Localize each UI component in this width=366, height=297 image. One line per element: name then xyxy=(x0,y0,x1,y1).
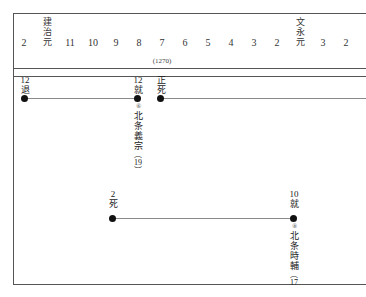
year-column-6-label: 7 xyxy=(151,38,173,49)
year-column-7-label: 6 xyxy=(174,38,196,49)
timeline-dot-upper-death xyxy=(157,95,164,102)
era-char: 元 xyxy=(289,37,311,47)
timeline-dot-lower-appoint xyxy=(290,215,297,222)
year-column-5-label: 8 xyxy=(128,38,150,49)
year-column-3-label: 10 xyxy=(82,38,104,49)
era-char: 文 xyxy=(289,17,311,27)
header-divider-lower xyxy=(13,76,366,77)
timeline-dot-upper-mid xyxy=(134,95,141,102)
western-year-annotation: (1270) xyxy=(142,57,182,65)
year-column-10-label: 3 xyxy=(243,38,265,49)
frame-left-border xyxy=(13,13,14,285)
event-label-upper-retire: 12 退 xyxy=(15,76,35,96)
person-name-char: 時 xyxy=(287,251,301,261)
year-column-11-label: 2 xyxy=(266,38,288,49)
event-label-upper-death: 正 死 xyxy=(151,76,171,96)
frame-top-border xyxy=(13,13,366,14)
year-column-9-label: 4 xyxy=(220,38,242,49)
person-name-char: 条 xyxy=(131,121,145,131)
year-column-14-label: 2 xyxy=(335,38,357,49)
person-name-char: 義 xyxy=(131,131,145,141)
era-char: 元 xyxy=(36,37,58,47)
year-column-4-label: 9 xyxy=(105,38,127,49)
timeline-dot-upper-start xyxy=(21,95,28,102)
person-label-hojo-munemune: ⑥ 北 条 義 宗 ︵ 19 ︶ xyxy=(131,103,145,175)
person-name-char: 北 xyxy=(287,231,301,241)
era-char: 永 xyxy=(289,27,311,37)
timeline-dot-lower-death xyxy=(109,215,116,222)
era-label-bunei: 文 永 元 xyxy=(289,17,311,47)
event-label-upper-appoint: 12 就 xyxy=(128,76,148,96)
person-order-marker: ⑧ xyxy=(287,223,301,230)
event-action: 就 xyxy=(284,200,304,210)
year-column-13-label: 3 xyxy=(312,38,334,49)
event-action: 退 xyxy=(15,86,35,96)
frame-bottom-border xyxy=(13,284,366,285)
timeline-segment-upper-left xyxy=(24,98,140,99)
era-char: 治 xyxy=(36,27,58,37)
event-label-lower-death: 2 死 xyxy=(103,190,123,210)
person-age: 17 xyxy=(287,279,301,287)
year-column-2-label: 11 xyxy=(59,38,81,49)
paren-close: ︶ xyxy=(131,167,145,175)
timeline-segment-upper-right xyxy=(160,98,366,99)
event-action: 死 xyxy=(151,86,171,96)
timeline-segment-lower xyxy=(112,218,293,219)
person-name-char: 条 xyxy=(287,241,301,251)
header-divider xyxy=(13,68,366,69)
era-char: 建 xyxy=(36,17,58,27)
person-name-char: 北 xyxy=(131,111,145,121)
person-label-hojo-tokisuke: ⑧ 北 条 時 輔 ︵ 17 xyxy=(287,223,301,287)
event-label-lower-appoint: 10 就 xyxy=(284,190,304,210)
event-action: 死 xyxy=(103,200,123,210)
year-column-0-label: 2 xyxy=(13,38,35,49)
person-order-marker: ⑥ xyxy=(131,103,145,110)
timeline-diagram: 2 建 治 元 11 10 9 8 7 6 5 4 3 2 文 永 元 3 2 … xyxy=(0,0,366,297)
year-column-8-label: 5 xyxy=(197,38,219,49)
event-action: 就 xyxy=(128,86,148,96)
era-label-kenji: 建 治 元 xyxy=(36,17,58,47)
